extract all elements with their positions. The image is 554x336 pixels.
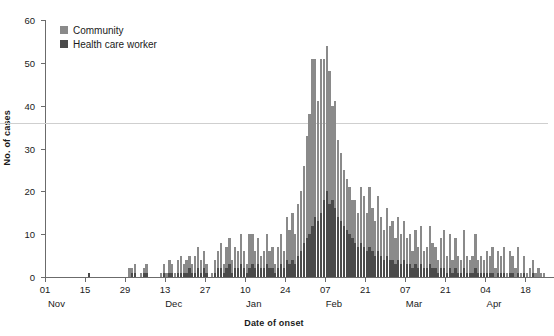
bar-segment-health-care-worker xyxy=(205,273,207,277)
y-tick-label: 20 xyxy=(13,186,35,197)
x-axis-line xyxy=(45,277,554,278)
x-tick-label: 27 xyxy=(190,284,220,295)
y-tick-label: 60 xyxy=(13,15,35,26)
x-tick-label: 21 xyxy=(350,284,380,295)
x-axis-title: Date of onset xyxy=(0,318,548,328)
x-tick-mark xyxy=(45,278,46,282)
y-tick-label: 50 xyxy=(13,57,35,68)
bar-segment-community xyxy=(517,247,519,273)
y-tick-mark xyxy=(41,234,45,235)
x-tick-label: 21 xyxy=(430,284,460,295)
x-month-label: Dec xyxy=(154,298,194,309)
y-tick-mark xyxy=(41,191,45,192)
y-tick-mark xyxy=(41,106,45,107)
x-tick-mark xyxy=(405,278,406,282)
bar-segment-community xyxy=(171,264,173,273)
bar-segment-health-care-worker xyxy=(134,273,136,277)
bar-segment-health-care-worker xyxy=(88,273,90,277)
x-tick-mark xyxy=(525,278,526,282)
y-tick-label: 10 xyxy=(13,229,35,240)
x-tick-mark xyxy=(85,278,86,282)
bar-segment-community xyxy=(134,264,136,273)
bar-segment-community xyxy=(503,247,505,273)
x-tick-label: 01 xyxy=(30,284,60,295)
y-tick-mark xyxy=(41,20,45,21)
y-tick-label: 30 xyxy=(13,143,35,154)
legend-item: Health care worker xyxy=(60,38,157,50)
x-tick-mark xyxy=(365,278,366,282)
legend-item: Community xyxy=(60,24,157,36)
x-tick-label: 10 xyxy=(230,284,260,295)
x-tick-label: 24 xyxy=(270,284,300,295)
x-tick-label: 29 xyxy=(110,284,140,295)
legend-label: Community xyxy=(73,25,124,36)
x-tick-label: 15 xyxy=(70,284,100,295)
x-month-label: Apr xyxy=(474,298,514,309)
bar-segment-community xyxy=(532,260,534,273)
x-tick-label: 07 xyxy=(390,284,420,295)
bar-segment-health-care-worker xyxy=(145,273,147,277)
legend-swatch-icon xyxy=(60,26,68,34)
y-tick-mark xyxy=(41,63,45,64)
bar-segment-community xyxy=(523,256,525,273)
x-tick-mark xyxy=(445,278,446,282)
x-month-label: Mar xyxy=(394,298,434,309)
x-tick-label: 18 xyxy=(510,284,540,295)
x-tick-mark xyxy=(205,278,206,282)
x-tick-mark xyxy=(285,278,286,282)
x-tick-mark xyxy=(245,278,246,282)
bar-segment-community xyxy=(543,273,545,277)
chart-legend: CommunityHealth care worker xyxy=(60,24,157,52)
x-tick-label: 13 xyxy=(150,284,180,295)
x-tick-mark xyxy=(165,278,166,282)
x-month-label: Feb xyxy=(314,298,354,309)
x-tick-label: 07 xyxy=(310,284,340,295)
x-month-label: Jan xyxy=(234,298,274,309)
x-month-label: Nov xyxy=(36,298,76,309)
x-tick-mark xyxy=(125,278,126,282)
bar-segment-community xyxy=(163,264,165,273)
x-tick-mark xyxy=(325,278,326,282)
x-tick-label: 04 xyxy=(470,284,500,295)
x-tick-mark xyxy=(485,278,486,282)
y-tick-label: 0 xyxy=(13,272,35,283)
bar-segment-community xyxy=(145,264,147,273)
y-tick-label: 40 xyxy=(13,100,35,111)
y-tick-mark xyxy=(41,149,45,150)
bar-segment-community xyxy=(205,264,207,273)
legend-swatch-icon xyxy=(60,40,68,48)
legend-label: Health care worker xyxy=(73,39,157,50)
